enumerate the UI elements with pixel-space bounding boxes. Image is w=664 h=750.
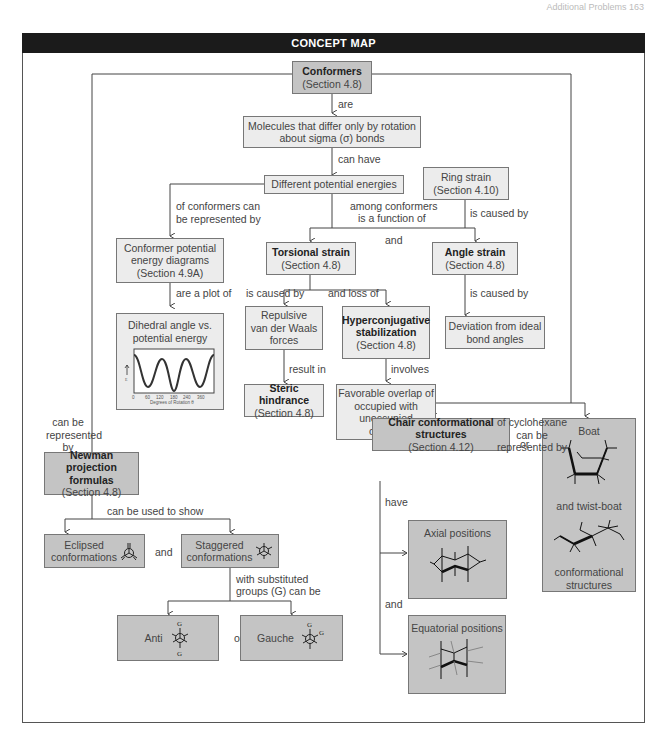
node-equatorial-positions: Equatorial positions bbox=[408, 615, 506, 694]
node-text: Gauche bbox=[257, 632, 294, 645]
link-involves: involves bbox=[391, 363, 429, 376]
node-text: bond angles bbox=[466, 333, 523, 346]
link-are-plot-of: are a plot of bbox=[176, 287, 231, 300]
link-text: represented bbox=[46, 429, 90, 442]
svg-text:G: G bbox=[177, 650, 182, 657]
node-molecules: Molecules that differ only by rotation a… bbox=[243, 116, 421, 148]
node-text: structures bbox=[566, 579, 612, 592]
node-text: forces bbox=[270, 334, 299, 347]
twist-boat-icon bbox=[552, 518, 626, 558]
node-title: Conformers bbox=[302, 65, 362, 78]
node-title: Angle strain bbox=[445, 246, 506, 259]
link-of-conformers-1: of conformers can bbox=[176, 200, 260, 213]
svg-text:G: G bbox=[319, 629, 324, 637]
node-gauche: Gauche G G bbox=[240, 615, 343, 661]
link-text: of cyclohexane bbox=[496, 416, 568, 429]
node-text: Conformer potential bbox=[124, 242, 216, 255]
axial-chair-icon bbox=[428, 540, 488, 588]
node-title: formulas bbox=[69, 474, 113, 487]
node-text: Equatorial positions bbox=[411, 622, 503, 635]
node-section: (Section 4.8) bbox=[445, 259, 505, 272]
node-text: Molecules that differ only by rotation bbox=[248, 120, 416, 133]
link-text: represented by bbox=[496, 441, 568, 454]
link-of-conformers-2: be represented by bbox=[176, 213, 261, 226]
node-angle-strain: Angle strain (Section 4.8) bbox=[432, 242, 518, 275]
link-among-1: among conformers bbox=[350, 200, 438, 213]
node-energy-diagrams: Conformer potential energy diagrams (Sec… bbox=[116, 238, 224, 283]
node-text: van der Waals bbox=[251, 322, 318, 335]
node-text: energy diagrams bbox=[131, 254, 209, 267]
link-used-to-show: can be used to show bbox=[107, 505, 203, 518]
node-section: (Section 4.12) bbox=[408, 441, 473, 454]
link-and-eclipsed-staggered: and bbox=[155, 546, 173, 559]
svg-text:0: 0 bbox=[132, 395, 135, 400]
node-section: (Section 4.8) bbox=[281, 259, 341, 272]
link-and-axial-equatorial: and bbox=[385, 598, 403, 611]
node-axial-positions: Axial positions bbox=[408, 520, 507, 599]
node-text: and twist-boat bbox=[556, 500, 621, 513]
node-text: occupied with bbox=[354, 400, 418, 413]
node-title: Hyperconjugative bbox=[342, 314, 430, 327]
node-title: Steric hindrance bbox=[245, 382, 323, 407]
anti-newman-icon: G G bbox=[168, 619, 192, 657]
node-text: Favorable overlap of bbox=[338, 387, 434, 400]
node-text: Staggered bbox=[187, 539, 253, 552]
node-hyperconjugative: Hyperconjugative stabilization (Section … bbox=[342, 306, 430, 359]
node-text: Boat bbox=[578, 425, 600, 438]
node-newman-projection: Newman projection formulas (Section 4.8) bbox=[44, 452, 139, 495]
node-title: Torsional strain bbox=[272, 246, 350, 259]
link-among-2: is a function of bbox=[358, 212, 426, 225]
node-text: Dihedral angle vs. bbox=[128, 319, 212, 332]
node-section: (Section 4.8) bbox=[62, 486, 122, 499]
node-ring-strain: Ring strain (Section 4.10) bbox=[423, 167, 509, 200]
node-title: Chair conformational structures bbox=[373, 416, 509, 441]
node-anti: Anti G G bbox=[117, 615, 219, 661]
node-dihedral-plot: Dihedral angle vs. potential energy E 06… bbox=[116, 313, 224, 410]
link-can-be-represented: can be represented by bbox=[46, 416, 90, 454]
node-title: stabilization bbox=[356, 326, 417, 339]
node-steric-hindrance: Steric hindrance (Section 4.8) bbox=[244, 384, 324, 417]
node-staggered: Staggered conformations bbox=[181, 534, 279, 568]
node-text: Eclipsed bbox=[51, 539, 117, 552]
staggered-newman-icon bbox=[255, 542, 273, 560]
svg-text:E: E bbox=[125, 377, 128, 382]
svg-text:360: 360 bbox=[197, 395, 205, 400]
link-text: by bbox=[46, 441, 90, 454]
svg-text:Degrees of Rotation θ: Degrees of Rotation θ bbox=[150, 400, 194, 405]
node-text: (Section 4.10) bbox=[433, 184, 498, 197]
node-text: conformations bbox=[187, 551, 253, 564]
node-section: (Section 4.8) bbox=[356, 339, 416, 352]
equatorial-chair-icon bbox=[427, 635, 487, 683]
node-energies: Different potential energies bbox=[264, 175, 404, 194]
node-text: (Section 4.9A) bbox=[137, 267, 204, 280]
svg-text:G: G bbox=[177, 620, 182, 628]
energy-plot: E 060120 180240360 Degrees of Rotation θ bbox=[120, 347, 220, 405]
link-and-loss-of: and loss of bbox=[328, 287, 379, 300]
svg-text:G: G bbox=[307, 621, 312, 629]
link-substituted-1: with substituted bbox=[236, 573, 308, 586]
node-van-der-waals: Repulsive van der Waals forces bbox=[245, 306, 323, 350]
node-deviation: Deviation from ideal bond angles bbox=[445, 316, 545, 349]
node-conformers: Conformers (Section 4.8) bbox=[292, 61, 372, 94]
node-text: Repulsive bbox=[261, 309, 307, 322]
node-text: conformational bbox=[555, 566, 624, 579]
gauche-newman-icon: G G bbox=[298, 620, 326, 656]
node-eclipsed: Eclipsed conformations bbox=[44, 534, 145, 568]
node-torsional-strain: Torsional strain (Section 4.8) bbox=[266, 242, 356, 275]
node-text: Axial positions bbox=[424, 527, 491, 540]
node-text: Ring strain bbox=[441, 171, 491, 184]
node-section: (Section 4.8) bbox=[254, 407, 314, 420]
link-and-torsional-angle: and bbox=[385, 234, 403, 247]
link-can-have: can have bbox=[338, 153, 381, 166]
link-torsional-caused-by: is caused by bbox=[246, 287, 304, 300]
link-angle-caused-by: is caused by bbox=[470, 287, 528, 300]
eclipsed-newman-icon bbox=[120, 541, 138, 561]
link-have: have bbox=[385, 496, 408, 509]
node-text: Deviation from ideal bbox=[449, 320, 542, 333]
node-section: (Section 4.8) bbox=[302, 78, 362, 91]
node-chair-structures: Chair conformational structures (Section… bbox=[372, 418, 510, 451]
link-cyclohexane: of cyclohexane can be represented by bbox=[496, 416, 568, 454]
link-result-in: result in bbox=[289, 363, 326, 376]
link-text: can be bbox=[496, 429, 568, 442]
node-text: potential energy bbox=[133, 332, 208, 345]
